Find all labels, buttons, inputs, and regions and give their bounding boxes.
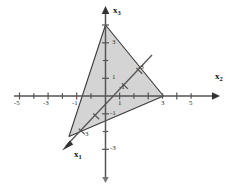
x2-axis-label: x2 bbox=[215, 72, 223, 81]
coordinate-plane-figure: x3 x2 x1 -5 -3 -1 1 3 5 3 1 -1 -3 3 -1 -… bbox=[0, 0, 235, 189]
x2-tick-label-5: 5 bbox=[189, 100, 193, 107]
x2-tick-label-minus1: -1 bbox=[72, 100, 78, 107]
x3-tick-label-minus1: -1 bbox=[110, 110, 116, 117]
x1-axis-label: x1 bbox=[74, 150, 82, 159]
axes-and-plane-drawing bbox=[0, 0, 235, 189]
x2-tick-label-3: 3 bbox=[161, 100, 165, 107]
x2-tick-label-minus3: -3 bbox=[43, 100, 49, 107]
x1-tick-label-3: 3 bbox=[85, 131, 89, 138]
x1-tick-label-minus1: -1 bbox=[119, 84, 125, 91]
x3-tick-label-1: 1 bbox=[112, 74, 116, 81]
x3-tick-label-3: 3 bbox=[112, 39, 116, 46]
x1-tick-label-minus3: -3 bbox=[138, 64, 144, 71]
x2-tick-label-minus5: -5 bbox=[14, 100, 20, 107]
x3-tick-label-minus3: -3 bbox=[110, 145, 116, 152]
shaded-plane-triangle bbox=[69, 25, 164, 137]
x2-tick-label-1: 1 bbox=[118, 100, 122, 107]
x3-axis-label: x3 bbox=[113, 6, 121, 15]
